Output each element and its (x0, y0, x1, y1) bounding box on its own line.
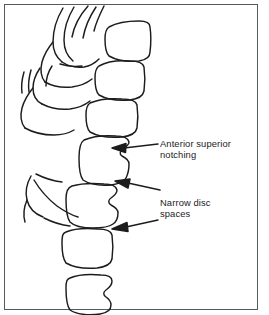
vertebral-body-4-notched (79, 136, 129, 186)
posterior-elements-lower (24, 128, 78, 226)
vertebral-body-3 (86, 99, 138, 138)
annotation-arrows (112, 144, 160, 232)
arrow-disc-space-upper (115, 179, 160, 190)
arrow-notching (112, 144, 158, 153)
posterior-elements-mid (21, 64, 92, 128)
vertebral-body-5 (66, 184, 118, 228)
annotation-label-anterior-superior-notching: Anterior superior notching (160, 138, 256, 161)
posterior-elements-upper (41, 6, 104, 82)
figure-root: Anterior superior notching Narrow disc s… (0, 0, 269, 315)
vertebral-body-6 (62, 229, 113, 269)
arrow-disc-space-lower (112, 220, 158, 232)
annotation-label-narrow-disc-spaces: Narrow disc spaces (160, 197, 250, 220)
vertebral-body-2 (95, 61, 145, 101)
vertebral-body-7 (66, 275, 112, 315)
vertebral-body-1 (105, 21, 151, 61)
